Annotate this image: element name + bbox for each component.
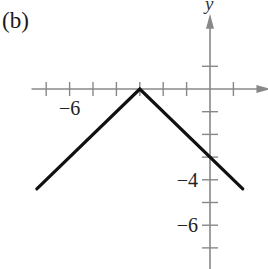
y-tick-label: −4 xyxy=(177,169,198,191)
x-axis-arrow-icon xyxy=(256,85,268,93)
y-tick-label: −6 xyxy=(177,214,198,236)
y-axis-label: y xyxy=(203,0,214,14)
chart-area: xy−6−4−6 xyxy=(0,0,268,269)
y-axis-arrow-icon xyxy=(206,14,214,29)
x-tick-label: −6 xyxy=(59,97,80,119)
